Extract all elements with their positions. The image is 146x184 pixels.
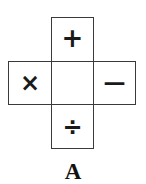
face-left: × xyxy=(8,61,52,105)
option-label: A xyxy=(0,160,146,183)
times-icon: × xyxy=(20,71,40,95)
minus-icon: — xyxy=(104,72,126,94)
face-right: — xyxy=(93,61,136,105)
face-bottom: ÷ xyxy=(51,104,94,149)
divide-icon: ÷ xyxy=(62,115,82,139)
face-center xyxy=(51,61,94,105)
plus-icon: + xyxy=(62,25,84,51)
face-top: + xyxy=(51,17,94,62)
